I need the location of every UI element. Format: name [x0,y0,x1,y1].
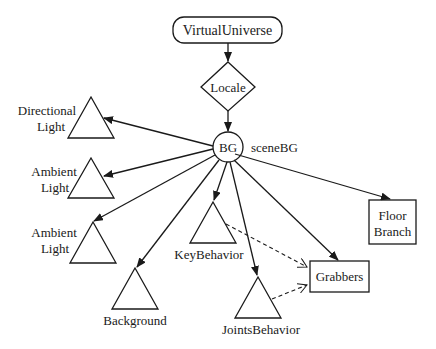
edge-bg-key-behavior [214,162,227,200]
floor-branch-node: Floor Branch [369,200,416,244]
ambient-light-node-2: Ambient Light [31,222,116,263]
ambient-light-2-label-1: Ambient [31,225,77,240]
ambient-light-2-label-2: Light [41,241,70,256]
key-behavior-label: KeyBehavior [174,247,244,262]
scene-bg-annotation: sceneBG [251,140,298,155]
ambient-light-1-label-2: Light [41,180,70,195]
locale-label: Locale [210,80,246,95]
floor-branch-label-2: Branch [374,224,412,239]
directional-light-label-1: Directional [18,103,77,118]
edge-bg-ambient-light-1 [104,149,213,176]
ambient-light-node-1: Ambient Light [31,158,114,198]
virtual-universe-label: VirtualUniverse [183,23,272,38]
edge-bg-directional-light [104,118,213,146]
grabbers-label: Grabbers [316,269,364,284]
joints-behavior-node: JointsBehavior [222,277,301,337]
edge-joints-behavior-grabbers-dashed [272,285,307,299]
key-behavior-node: KeyBehavior [174,202,244,262]
directional-light-label-2: Light [37,119,66,134]
background-label: Background [103,313,167,328]
bg-node: BG [213,132,243,162]
scene-graph-diagram: VirtualUniverse Locale BG sceneBG Direct… [0,0,436,349]
directional-light-node: Directional Light [18,97,114,138]
ambient-light-1-label-1: Ambient [31,164,77,179]
floor-branch-label-1: Floor [378,208,407,223]
joints-behavior-label: JointsBehavior [222,322,301,337]
bg-label: BG [219,140,237,155]
grabbers-node: Grabbers [310,261,369,292]
edge-bg-floor-branch [235,154,390,199]
locale-node: Locale [201,62,255,111]
virtual-universe-node: VirtualUniverse [173,17,282,43]
background-node: Background [103,268,167,328]
